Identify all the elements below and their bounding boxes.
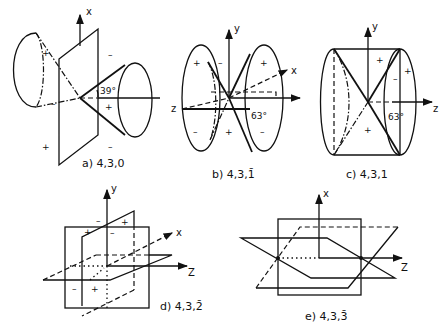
x-axis xyxy=(107,233,172,266)
sign: + xyxy=(376,55,384,65)
dotted-line xyxy=(90,268,104,280)
x-axis-label: x xyxy=(176,227,182,238)
left-ellipse xyxy=(182,45,220,151)
sign: – xyxy=(108,50,113,60)
cone-line-upper-left xyxy=(36,33,80,98)
angle-label-39: 39° xyxy=(100,86,116,96)
panel-e: x Z e) 4,3,3̄ xyxy=(241,188,408,323)
horizontal-plane-hidden xyxy=(43,255,96,280)
sign: – xyxy=(110,228,115,238)
sign: + xyxy=(404,66,412,76)
z-axis-label: Z xyxy=(188,267,195,278)
angle-label-63: 63° xyxy=(388,112,404,122)
figure-canvas: 39° x + – – + + – a) 4,3,0 y x z 63° + – xyxy=(0,0,441,328)
sign: – xyxy=(193,127,198,137)
sign: – xyxy=(72,284,77,294)
x-axis-label: x xyxy=(291,65,297,76)
sign: – xyxy=(51,99,56,109)
angle-label-63: 63° xyxy=(251,111,267,121)
angle-arc xyxy=(97,90,98,97)
panel-d: y x Z – + + – – + d) 4,3,2̄ xyxy=(43,183,203,316)
cone-line xyxy=(229,98,252,152)
x-axis xyxy=(229,70,287,98)
x-axis-label: x xyxy=(323,188,329,199)
left-ellipse-front xyxy=(14,33,37,107)
cone-line xyxy=(334,102,368,155)
diagonal-plane-hidden xyxy=(82,290,134,316)
sign: + xyxy=(121,217,129,227)
intersection-point xyxy=(276,256,280,260)
sign: + xyxy=(105,102,113,112)
caption-b: b) 4,3,1̄ xyxy=(212,168,255,181)
caption-a: a) 4,3,0 xyxy=(82,157,125,170)
left-ellipse-back xyxy=(36,33,44,107)
plane-a xyxy=(59,29,98,165)
sign: + xyxy=(364,125,372,135)
y-axis-label: y xyxy=(234,23,240,34)
z-axis-label: z xyxy=(433,103,438,114)
sign: + xyxy=(42,48,50,58)
z-axis-label: z xyxy=(171,103,176,114)
sign: + xyxy=(42,142,50,152)
z-axis-label: Z xyxy=(401,262,408,273)
caption-c: c) 4,3,1 xyxy=(346,168,388,181)
panel-c: y z 63° + + – + c) 4,3,1 xyxy=(321,21,439,181)
left-cylinder-cap xyxy=(321,49,335,155)
sign: + xyxy=(260,58,268,68)
y-axis-label: y xyxy=(372,21,378,32)
plane-back-edge xyxy=(211,92,276,98)
caption-e: e) 4,3,3̄ xyxy=(305,310,348,323)
sign: + xyxy=(84,227,92,237)
sign: + xyxy=(91,284,99,294)
cone-line-lower-left xyxy=(36,98,80,107)
sign: + xyxy=(225,127,233,137)
sign: – xyxy=(393,74,398,84)
panel-a: 39° x + – – + + – a) 4,3,0 xyxy=(14,6,161,170)
intersection-point xyxy=(359,256,363,260)
panel-b: y x z 63° + – + – + – b) 4,3,1̄ xyxy=(171,23,300,181)
sign: – xyxy=(218,58,223,68)
y-axis-label: y xyxy=(111,183,117,194)
sign: – xyxy=(96,216,101,226)
right-ellipse xyxy=(118,63,152,137)
x-axis-back xyxy=(182,98,229,109)
sign: – xyxy=(260,127,265,137)
sign: + xyxy=(193,58,201,68)
sign: – xyxy=(108,142,113,152)
x-axis-label: x xyxy=(86,6,92,17)
caption-d: d) 4,3,2̄ xyxy=(160,300,203,313)
inner-cone-back xyxy=(334,49,349,155)
